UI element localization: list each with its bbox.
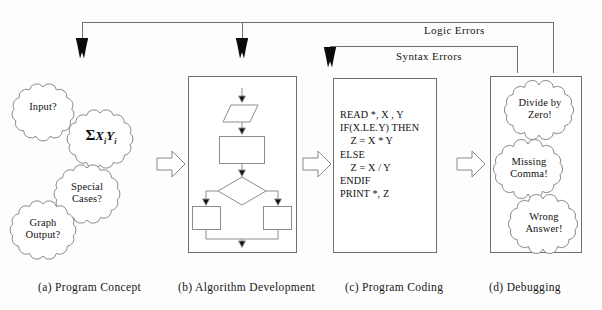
cloud-label-wrong-answer: Wrong Answer! [511, 211, 577, 234]
cloud-label-missing-comma: Missing Comma! [496, 156, 562, 179]
figure-canvas: Input? ΣXiYi Special Cases? Graph Output… [0, 0, 602, 310]
caption-panel-d: (d) Debugging [489, 281, 561, 293]
feedback-arrowhead-concept [76, 38, 88, 59]
feedback-arrowhead-coding [324, 47, 336, 68]
caption-panel-c: (c) Program Coding [345, 281, 443, 293]
flow-node-process-rectangle [220, 137, 265, 164]
feedback-arrowhead-algorithm [236, 38, 248, 59]
caption-panel-b: (b) Algorithm Development [178, 281, 315, 293]
caption-panel-a: (a) Program Concept [38, 281, 141, 293]
cloud-label-divide-by-zero: Divide by Zero! [507, 97, 573, 120]
cloud-label-input: Input? [13, 101, 73, 113]
arrow-algorithm-to-coding [303, 151, 331, 177]
flow-node-branch-rectangle-left [193, 207, 221, 230]
arrow-coding-to-debugging [457, 151, 485, 177]
cloud-label-graph-output: Graph Output? [13, 217, 73, 240]
cloud-label-sigma-formula: ΣXiYi [70, 127, 132, 146]
cloud-label-special-cases: Special Cases? [57, 181, 117, 204]
program-code-listing: READ *, X , Y IF(X.LE.Y) THEN Z = X * Y … [340, 108, 419, 200]
arrow-concept-to-algorithm [157, 151, 185, 177]
diagram-vector-layer [0, 0, 602, 310]
label-logic-errors: Logic Errors [424, 24, 485, 36]
flow-node-branch-rectangle-right [264, 207, 292, 230]
label-syntax-errors: Syntax Errors [396, 50, 462, 62]
